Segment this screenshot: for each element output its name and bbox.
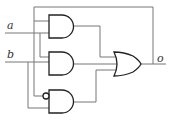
and-gate-2 <box>49 52 74 75</box>
and3-input-b-wire <box>28 62 49 108</box>
output-o-label: o <box>157 53 164 64</box>
input-b-label: b <box>7 49 14 60</box>
input-a-label: a <box>7 20 14 31</box>
and-gate-3 <box>49 90 74 113</box>
and3-output-wire <box>72 70 118 102</box>
and1-output-wire <box>72 26 118 57</box>
or-gate <box>114 52 141 76</box>
logic-circuit <box>0 0 172 126</box>
and3-input-nota-wire <box>34 34 43 96</box>
inverter-bubble <box>43 93 49 99</box>
and2-input-a-wire <box>40 33 49 57</box>
and-gate-1 <box>49 15 74 38</box>
